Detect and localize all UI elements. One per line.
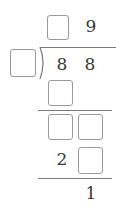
step2-product-ones-blank[interactable] — [78, 147, 103, 174]
division-bar — [40, 47, 116, 48]
division-bracket — [36, 46, 46, 80]
remainder-digit: 1 — [84, 185, 98, 202]
step2-product-tens-digit: 2 — [55, 151, 69, 168]
step1-remainder-tens-blank[interactable] — [48, 114, 73, 140]
step1-product-tens-blank[interactable] — [48, 80, 73, 106]
dividend-ones-digit: 8 — [83, 56, 97, 73]
quotient-ones-digit: 9 — [84, 18, 98, 35]
divisor-blank[interactable] — [10, 49, 36, 77]
step2-subtraction-line — [38, 178, 112, 179]
step1-remainder-ones-blank[interactable] — [78, 114, 103, 140]
quotient-tens-blank[interactable] — [47, 15, 69, 40]
dividend-tens-digit: 8 — [55, 56, 69, 73]
step1-subtraction-line — [38, 110, 112, 111]
